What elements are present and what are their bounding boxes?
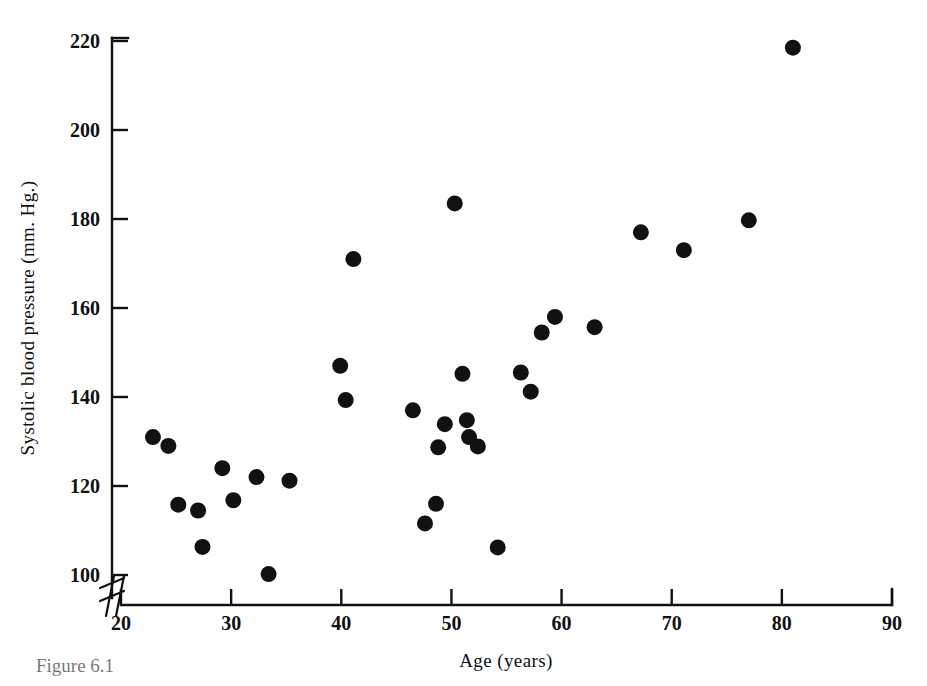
- y-tick-label-200: 200: [70, 119, 100, 141]
- data-point: [428, 496, 444, 512]
- data-point: [332, 358, 348, 374]
- data-point: [513, 365, 529, 381]
- y-axis: 100120140160180200220: [70, 30, 128, 598]
- data-point: [282, 473, 298, 489]
- data-point: [248, 469, 264, 485]
- data-point: [214, 460, 230, 476]
- data-point: [523, 384, 539, 400]
- data-point: [345, 251, 361, 267]
- data-point-layer: [145, 40, 801, 582]
- y-axis-title: Systolic blood pressure (mm. Hg.): [17, 181, 39, 456]
- x-axis: 2030405060708090: [111, 589, 902, 634]
- data-point: [145, 429, 161, 445]
- y-tick-label-140: 140: [70, 386, 100, 408]
- data-point: [437, 416, 453, 432]
- x-tick-label-90: 90: [882, 612, 902, 634]
- x-tick-label-30: 30: [221, 612, 241, 634]
- figure-root: 100120140160180200220 2030405060708090 A…: [0, 0, 927, 686]
- x-tick-label-60: 60: [552, 612, 572, 634]
- x-tick-label-80: 80: [772, 612, 792, 634]
- data-point: [785, 40, 801, 56]
- x-tick-group: [121, 589, 892, 605]
- data-point: [261, 566, 277, 582]
- data-point: [470, 438, 486, 454]
- data-point: [587, 319, 603, 335]
- data-point: [190, 502, 206, 518]
- y-tick-group: [112, 41, 128, 575]
- y-tick-label-220: 220: [70, 30, 100, 52]
- x-axis-title: Age (years): [459, 650, 553, 672]
- axis-break-icon: [100, 576, 124, 616]
- data-point: [195, 539, 211, 555]
- data-point: [417, 515, 433, 531]
- data-point: [170, 497, 186, 513]
- data-point: [741, 212, 757, 228]
- y-tick-label-group: 100120140160180200220: [70, 30, 100, 586]
- y-tick-label-100: 100: [70, 564, 100, 586]
- figure-caption: Figure 6.1: [36, 655, 114, 677]
- data-point: [405, 402, 421, 418]
- data-point: [547, 309, 563, 325]
- data-point: [676, 242, 692, 258]
- data-point: [534, 324, 550, 340]
- data-point: [454, 366, 470, 382]
- x-tick-label-50: 50: [441, 612, 461, 634]
- y-tick-label-160: 160: [70, 297, 100, 319]
- data-point: [633, 224, 649, 240]
- x-tick-label-40: 40: [331, 612, 351, 634]
- scatter-plot-canvas: 100120140160180200220 2030405060708090 A…: [0, 0, 927, 686]
- data-point: [225, 492, 241, 508]
- data-point: [160, 438, 176, 454]
- data-point: [459, 412, 475, 428]
- x-tick-label-70: 70: [662, 612, 682, 634]
- x-tick-label-20: 20: [111, 612, 131, 634]
- x-tick-label-group: 2030405060708090: [111, 612, 902, 634]
- data-point: [490, 539, 506, 555]
- y-tick-label-120: 120: [70, 475, 100, 497]
- data-point: [430, 439, 446, 455]
- data-point: [338, 392, 354, 408]
- data-point: [447, 195, 463, 211]
- y-tick-label-180: 180: [70, 208, 100, 230]
